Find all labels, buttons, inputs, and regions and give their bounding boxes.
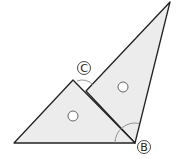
circle-marker-icon [68, 111, 78, 121]
label-b: B [138, 141, 151, 155]
circle-marker-icon [118, 82, 128, 92]
angle-arc-c [77, 80, 93, 85]
label-b-text: B [140, 141, 148, 154]
diagram-canvas: C B [0, 0, 178, 160]
label-c: C [78, 62, 91, 76]
label-c-text: C [80, 62, 88, 75]
